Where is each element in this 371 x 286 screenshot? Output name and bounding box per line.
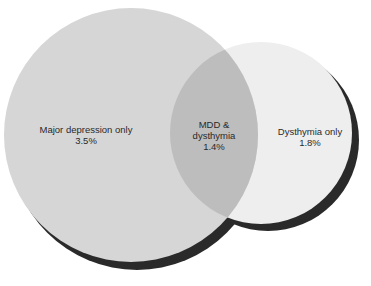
overlap-title-line1: MDD & (193, 119, 236, 130)
dysthymia-only-value: 1.8% (278, 137, 342, 148)
mdd-only-value: 3.5% (40, 135, 133, 146)
overlap-value: 1.4% (193, 141, 236, 152)
overlap-label: MDD & dysthymia 1.4% (193, 119, 236, 152)
dysthymia-only-title: Dysthymia only (278, 126, 342, 137)
overlap-title-line2: dysthymia (193, 130, 236, 141)
dysthymia-only-label: Dysthymia only 1.8% (278, 126, 342, 148)
mdd-only-title: Major depression only (40, 124, 133, 135)
mdd-only-label: Major depression only 3.5% (40, 124, 133, 146)
